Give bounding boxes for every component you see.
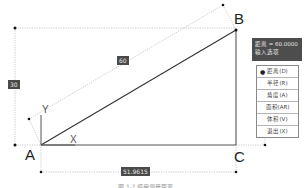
- menu-item-angle[interactable]: 角度(A): [257, 90, 298, 102]
- figure-caption: 图 1-? 使用测量距离: [118, 182, 173, 188]
- selected-bullet-icon: ●: [260, 66, 265, 77]
- menu-item-area[interactable]: 面积(AR): [257, 102, 298, 114]
- menu-item-distance[interactable]: ● 距离(D): [257, 66, 298, 78]
- y-axis-label: Y: [42, 104, 49, 115]
- x-axis-label: X: [70, 134, 77, 145]
- point-c-label: C: [234, 148, 245, 165]
- base-dimension[interactable]: 51.9615: [121, 167, 150, 176]
- menu-item-volume[interactable]: 体积(V): [257, 114, 298, 126]
- tooltip-prompt: 输入选项: [255, 48, 299, 56]
- option-menu: ● 距离(D) 半径(R) 角度(A) 面积(AR) 体积(V) 退出(X): [256, 65, 299, 138]
- hypotenuse-dimension[interactable]: 60: [117, 56, 129, 65]
- tooltip-distance: 距离 = 60.0000: [255, 40, 299, 48]
- triangle-abc: [41, 30, 236, 145]
- measure-tooltip: 距离 = 60.0000 输入选项: [252, 38, 302, 61]
- snap-points: [14, 4, 267, 174]
- height-dimension[interactable]: 30: [8, 80, 20, 89]
- menu-item-exit[interactable]: 退出(X): [257, 126, 298, 137]
- point-a-label: A: [25, 146, 35, 163]
- dimension-lines: [15, 5, 265, 172]
- menu-item-radius[interactable]: 半径(R): [257, 78, 298, 90]
- point-b-label: B: [234, 10, 244, 27]
